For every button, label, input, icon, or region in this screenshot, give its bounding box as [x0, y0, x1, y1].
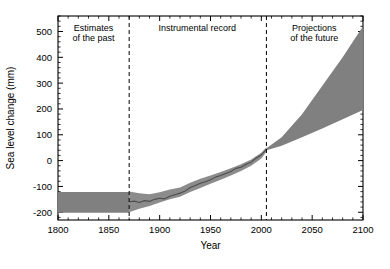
annotation-instrumental-record-line-1: Instrumental record	[159, 23, 237, 33]
y-tick-label-500: 500	[36, 26, 52, 37]
y-axis-title: Sea level change (mm)	[5, 67, 16, 170]
x-tick-label-2100: 2100	[352, 224, 373, 235]
x-tick-label-2050: 2050	[302, 224, 323, 235]
y-tick-label-400: 400	[36, 52, 52, 63]
x-tick-label-1800: 1800	[47, 224, 68, 235]
annotation-estimates-of-the-past-line-2: of the past	[73, 33, 116, 43]
sea-level-change-figure: 1800185019001950200020502100-200-1000100…	[0, 0, 390, 269]
x-tick-label-1950: 1950	[200, 224, 221, 235]
x-tick-label-1850: 1850	[98, 224, 119, 235]
y-tick-label-100: 100	[36, 129, 52, 140]
sea-level-chart: 1800185019001950200020502100-200-1000100…	[0, 0, 390, 269]
x-tick-label-2000: 2000	[251, 224, 272, 235]
y-tick-label-200: 200	[36, 103, 52, 114]
annotation-estimates-of-the-past-line-1: Estimates	[74, 23, 114, 33]
annotation-projections-of-the-future-line-1: Projections	[292, 23, 337, 33]
y-tick-label-300: 300	[36, 78, 52, 89]
x-axis-title: Year	[200, 240, 221, 251]
annotation-projections-of-the-future-line-2: of the future	[290, 33, 338, 43]
series-band-estimates-of-the-past-uncertainty-band	[58, 192, 129, 213]
y-tick-label-0: 0	[47, 155, 52, 166]
x-tick-label-1900: 1900	[149, 224, 170, 235]
y-tick-label--200: -200	[33, 207, 52, 218]
y-tick-label--100: -100	[33, 181, 52, 192]
